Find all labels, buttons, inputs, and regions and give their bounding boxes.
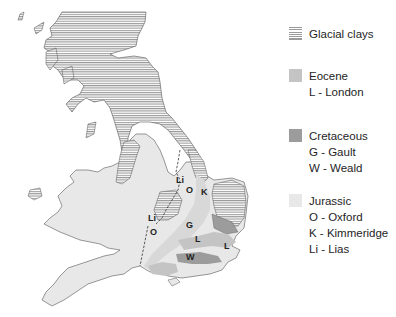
map-label-w: W — [186, 252, 195, 262]
jurassic-swatch-icon — [289, 194, 302, 207]
legend-subitem: W - Weald — [309, 160, 368, 176]
map-label-o-south: O — [150, 227, 157, 237]
legend-title: Jurassic — [309, 193, 388, 209]
legend-title: Cretaceous — [309, 128, 368, 144]
legend-title: Eocene — [309, 68, 364, 84]
island-1 — [18, 12, 24, 20]
map-label-o-north: O — [186, 185, 193, 195]
map-label-li-north: Li — [176, 175, 184, 185]
map-label-k: K — [201, 187, 208, 197]
legend-title: Glacial clays — [309, 26, 374, 42]
legend-subitem: L - London — [309, 84, 364, 100]
geology-map: Li O K G Li O L L W — [0, 0, 280, 317]
map-label-l-inland: L — [195, 234, 201, 244]
map-label-li-south: Li — [148, 213, 156, 223]
island-2 — [34, 22, 44, 34]
legend-subitem: G - Gault — [309, 144, 368, 160]
hatched-swatch-icon — [289, 27, 302, 40]
glacial-region-north — [44, 12, 200, 162]
legend-subitem: K - Kimmeridge — [309, 225, 388, 241]
island-isle-of-man — [86, 122, 96, 138]
legend-subitem: Li - Lias — [309, 241, 388, 257]
map-label-g: G — [186, 220, 193, 230]
isle-of-wight — [168, 278, 180, 286]
eocene-swatch-icon — [289, 69, 302, 82]
legend-subitem: O - Oxford — [309, 209, 388, 225]
cretaceous-swatch-icon — [289, 129, 302, 142]
anglesey — [28, 188, 42, 200]
map-label-l-coast: L — [224, 241, 230, 251]
